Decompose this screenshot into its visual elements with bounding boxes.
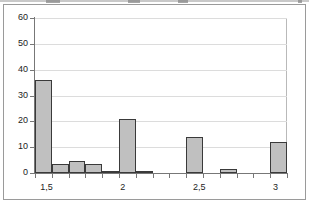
x-axis-line — [34, 173, 288, 174]
y-tick-label: 40 — [0, 65, 28, 74]
bar — [69, 161, 86, 173]
y-tick-mark — [30, 173, 34, 174]
x-tick-label: 3 — [273, 182, 278, 192]
x-tick-label: 2 — [120, 182, 125, 192]
scan-artifact-blob — [128, 0, 140, 3]
scan-artifact-blob — [298, 0, 302, 3]
bar — [102, 171, 119, 173]
chart-screenshot: 0102030405060 1,522,53 — [0, 0, 309, 203]
bar — [136, 171, 153, 173]
x-tick-mark — [35, 174, 36, 178]
x-tick-mark — [69, 174, 70, 178]
x-tick-mark — [85, 174, 86, 178]
bar — [85, 164, 102, 173]
x-tick-label: 2,5 — [193, 182, 206, 192]
y-tick-mark — [30, 147, 34, 148]
x-tick-mark — [287, 174, 288, 178]
y-tick-label: 50 — [0, 39, 28, 48]
y-tick-label: 20 — [0, 116, 28, 125]
bar-series — [35, 18, 287, 173]
bar — [270, 142, 287, 173]
x-tick-mark — [203, 174, 204, 178]
x-tick-mark — [169, 174, 170, 178]
bar — [119, 119, 136, 173]
y-tick-label: 10 — [0, 142, 28, 151]
y-tick-label: 0 — [0, 168, 28, 177]
y-tick-mark — [30, 44, 34, 45]
bar — [52, 164, 69, 173]
bar — [35, 80, 52, 173]
x-tick-mark — [253, 174, 254, 178]
x-tick-mark — [220, 174, 221, 178]
y-tick-mark — [30, 18, 34, 19]
bar — [220, 169, 237, 173]
x-tick-label: 1,5 — [40, 182, 53, 192]
x-tick-mark — [136, 174, 137, 178]
x-tick-mark — [119, 174, 120, 178]
y-tick-label: 60 — [0, 13, 28, 22]
x-tick-mark — [153, 174, 154, 178]
y-tick-mark — [30, 96, 34, 97]
x-tick-mark — [52, 174, 53, 178]
x-tick-mark — [102, 174, 103, 178]
y-tick-mark — [30, 121, 34, 122]
bar — [186, 137, 203, 173]
x-tick-mark — [237, 174, 238, 178]
x-tick-mark — [186, 174, 187, 178]
x-tick-mark — [270, 174, 271, 178]
scan-artifact-blob — [46, 0, 60, 3]
scan-artifact-blob — [178, 0, 188, 3]
y-tick-label: 30 — [0, 91, 28, 100]
y-tick-mark — [30, 70, 34, 71]
